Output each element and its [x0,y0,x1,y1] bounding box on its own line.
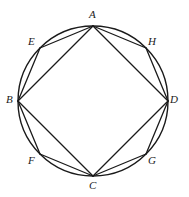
inscribed-octagon-layer [18,26,168,176]
square-edge-da [93,26,168,101]
vertex-label-e: E [28,36,35,47]
vertex-label-c: C [89,180,96,191]
square-edge-cd [93,101,168,176]
octagon-edge-eb [18,48,40,101]
octagon-edge-fc [40,154,93,176]
octagon-edge-dh [146,48,168,101]
inscribed-square-layer [18,26,168,176]
geometry-figure: AEBFCGDH [0,0,189,197]
octagon-edge-bf [18,101,40,154]
vertex-label-f: F [28,155,35,166]
vertex-label-b: B [6,94,13,105]
octagon-edge-ae [40,26,93,48]
vertex-label-a: A [89,9,96,20]
circumscribed-circle [18,26,168,176]
octagon-edge-ha [93,26,146,48]
octagon-edge-cg [93,154,146,176]
vertex-label-h: H [148,36,156,47]
circumscribed-circle-layer [18,26,168,176]
figure-canvas [0,0,189,197]
octagon-edge-gd [146,101,168,154]
vertex-label-g: G [148,155,156,166]
vertex-label-d: D [170,94,178,105]
